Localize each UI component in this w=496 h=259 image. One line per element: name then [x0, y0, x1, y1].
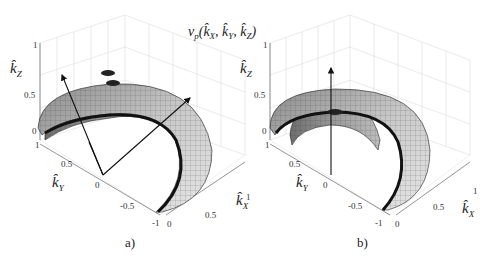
- panel-a-x-tick: 1: [246, 192, 251, 202]
- panel-a-y-tick: -0.5: [120, 201, 134, 211]
- panel-b-y-tick: 0.5: [289, 159, 300, 169]
- panel-b-y-tick: -0.5: [348, 201, 362, 211]
- panel-a-plot: [38, 15, 245, 215]
- panel-a-y-tick: -1: [152, 218, 160, 228]
- panel-b-x-label: k̂X: [462, 200, 474, 219]
- panel-b-z-tick: 1: [263, 40, 268, 50]
- panel-b-x-tick: 0.5: [433, 202, 444, 212]
- panel-b-z-tick: 0: [262, 126, 267, 136]
- figure: vp(k̂X, k̂Y, k̂Z) k̂Z k̂Y k̂X 1 0.5 0 1 …: [0, 0, 496, 259]
- panel-a-y-tick: 0.5: [61, 159, 72, 169]
- panel-a-z-tick: 1: [33, 40, 38, 50]
- panel-b-y-tick: -1: [375, 218, 383, 228]
- panel-a-y-tick: 0: [95, 180, 100, 190]
- panel-a-y-label: k̂Y: [52, 174, 64, 193]
- figure-title: vp(k̂X, k̂Y, k̂Z): [188, 24, 256, 41]
- panel-b-z-tick: 0.5: [254, 90, 265, 100]
- panel-b-y-tick: 1: [265, 140, 270, 150]
- panel-a-z-tick: 0: [32, 126, 37, 136]
- panel-a-label: a): [125, 235, 135, 251]
- panel-b-y-tick: 0: [323, 180, 328, 190]
- panel-b-x-tick: 0: [395, 219, 400, 229]
- panel-b-label: b): [357, 235, 368, 251]
- panel-b-y-label: k̂Y: [296, 174, 308, 193]
- panel-b-x-tick: 1: [473, 186, 478, 196]
- panel-a-y-tick: 1: [35, 140, 40, 150]
- panel-a-z-tick: 0.5: [24, 90, 35, 100]
- panel-a-x-tick: 0: [167, 219, 172, 229]
- panel-a-x-tick: 0.5: [205, 210, 216, 220]
- panel-a-z-label: k̂Z: [10, 60, 22, 79]
- panel-b-z-label: k̂Z: [240, 60, 252, 79]
